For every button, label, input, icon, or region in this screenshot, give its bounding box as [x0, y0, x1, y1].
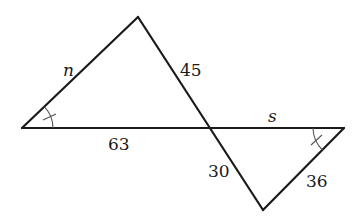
- angle-tick-right: [311, 135, 322, 145]
- label-63: 63: [108, 134, 130, 154]
- similar-triangles-diagram: n 45 63 s 30 36: [0, 0, 358, 222]
- label-30: 30: [208, 161, 230, 181]
- label-45: 45: [180, 60, 202, 80]
- side-45-30-transversal: [138, 17, 263, 210]
- side-36: [263, 128, 344, 210]
- angle-tick-left: [43, 114, 56, 120]
- side-n: [22, 17, 138, 128]
- label-36: 36: [306, 171, 328, 191]
- label-n: n: [63, 60, 74, 80]
- label-s: s: [268, 106, 277, 126]
